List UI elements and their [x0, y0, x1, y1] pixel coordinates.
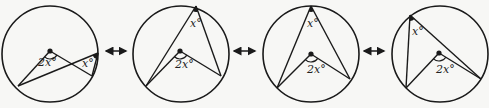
central-angle-label: 2x° [37, 56, 57, 69]
diagram-stage: 2x°x°2x°x°2x°x°2x°x° [0, 0, 489, 108]
inscribed-angle-label: x° [190, 17, 202, 30]
center-dot [308, 51, 313, 56]
circle [133, 6, 229, 102]
circle-panel-3: 2x°x° [263, 6, 359, 102]
chord-a [406, 15, 410, 88]
circle-panel-4: 2x°x° [392, 6, 488, 102]
central-angle-label: 2x° [306, 63, 326, 76]
chord-a [277, 6, 311, 88]
central-angle-label: 2x° [435, 63, 455, 76]
inscribed-angle-diagram: 2x°x°2x°x°2x°x°2x°x° [0, 0, 489, 108]
inscribed-angle-label: x° [307, 17, 319, 30]
inscribed-angle-label: x° [82, 57, 94, 70]
radius-a [406, 53, 439, 88]
center-dot [177, 48, 182, 53]
center-dot [47, 48, 52, 53]
circle [2, 6, 98, 102]
radius-a [277, 54, 311, 88]
inscribed-angle-label: x° [412, 25, 424, 38]
center-dot [436, 50, 441, 55]
circle-panel-2: 2x°x° [133, 6, 229, 102]
central-angle-arc [305, 58, 317, 62]
chord-a [146, 6, 196, 86]
circle-panel-1: 2x°x° [2, 6, 98, 102]
central-angle-label: 2x° [174, 58, 194, 71]
